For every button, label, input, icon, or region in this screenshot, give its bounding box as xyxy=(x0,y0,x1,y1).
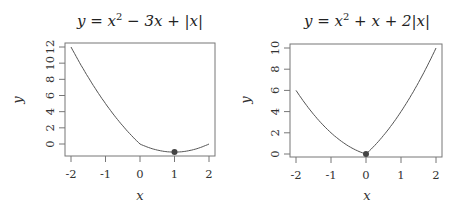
chart-left-minimum-point xyxy=(172,149,178,155)
x-tick-label: 1 xyxy=(397,168,404,182)
y-tick-label: 8 xyxy=(43,76,57,83)
chart-left-curve xyxy=(71,47,209,152)
x-tick-label: 0 xyxy=(136,167,143,181)
chart-right-curve xyxy=(296,48,436,154)
chart-left-ylabel: y xyxy=(10,96,25,105)
chart-right-y-axis: 0246810 xyxy=(268,41,290,158)
y-tick-label: 2 xyxy=(43,124,57,131)
chart-left-y-axis: 024681012 xyxy=(43,40,65,148)
x-tick-label: -2 xyxy=(65,167,76,181)
chart-right-xlabel: x xyxy=(363,188,371,203)
x-tick-label: -1 xyxy=(325,168,336,182)
y-tick-label: 12 xyxy=(43,40,57,55)
chart-left-x-axis: -2-1012 xyxy=(65,156,212,181)
chart-left: y = x2 − 3x + |x| -2-1012 024681012 x y xyxy=(10,11,215,203)
y-tick-label: 0 xyxy=(268,150,282,157)
x-tick-label: 2 xyxy=(432,168,439,182)
chart-right: y = x2 + x + 2|x| -2-1012 0246810 x y xyxy=(238,11,442,203)
y-tick-label: 8 xyxy=(268,66,282,73)
chart-left-title: y = x2 − 3x + |x| xyxy=(76,11,203,30)
y-tick-label: 2 xyxy=(268,129,282,136)
y-tick-label: 4 xyxy=(43,108,57,115)
x-tick-label: -1 xyxy=(100,167,111,181)
y-tick-label: 6 xyxy=(268,87,282,94)
y-tick-label: 10 xyxy=(268,41,282,56)
chart-right-minimum-point xyxy=(363,151,369,157)
x-tick-label: 0 xyxy=(362,168,369,182)
chart-right-title: y = x2 + x + 2|x| xyxy=(303,11,430,30)
chart-right-ylabel: y xyxy=(238,96,253,105)
y-tick-label: 0 xyxy=(43,140,57,147)
x-tick-label: 2 xyxy=(205,167,212,181)
chart-left-xlabel: x xyxy=(136,188,144,203)
x-tick-label: 1 xyxy=(171,167,178,181)
y-tick-label: 4 xyxy=(268,108,282,115)
chart-right-plot-box xyxy=(290,44,442,157)
figure-canvas: y = x2 − 3x + |x| -2-1012 024681012 x y … xyxy=(0,0,457,214)
x-tick-label: -2 xyxy=(290,168,301,182)
y-tick-label: 6 xyxy=(43,92,57,99)
chart-left-plot-box xyxy=(65,43,215,156)
y-tick-label: 10 xyxy=(43,56,57,71)
chart-right-x-axis: -2-1012 xyxy=(290,157,439,182)
